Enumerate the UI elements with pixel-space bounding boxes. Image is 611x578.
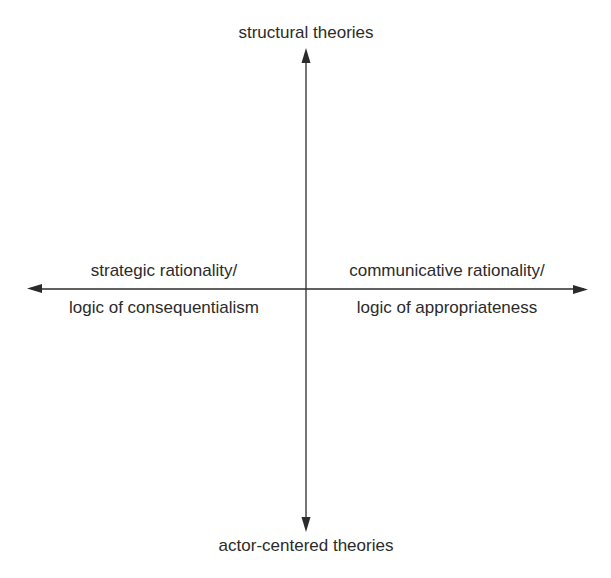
vertical-axis (302, 48, 311, 532)
left-axis-label-line1: strategic rationality/ (91, 261, 237, 281)
top-axis-label: structural theories (238, 23, 373, 43)
quadrant-diagram: structural theories actor-centered theor… (0, 0, 611, 578)
left-axis-label-line2: logic of consequentialism (69, 298, 259, 318)
arrow-up-icon (302, 48, 311, 63)
axes (0, 0, 611, 578)
arrow-left-icon (27, 284, 42, 293)
arrow-right-icon (573, 285, 588, 294)
horizontal-axis (27, 284, 588, 294)
right-axis-label-line1: communicative rationality/ (349, 261, 545, 281)
right-axis-label-line2: logic of appropriateness (357, 298, 538, 318)
arrow-down-icon (302, 517, 311, 532)
bottom-axis-label: actor-centered theories (219, 536, 394, 556)
